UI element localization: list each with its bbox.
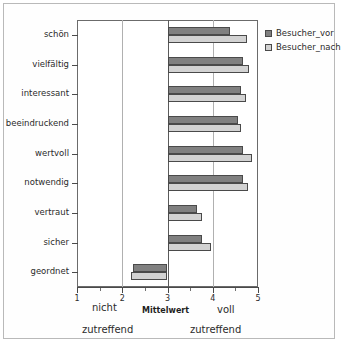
legend-swatch-Besucher_vor xyxy=(265,30,272,37)
legend-item-Besucher_nach[interactable]: Besucher_nach xyxy=(265,42,341,52)
bar-vielfältig-Besucher_vor xyxy=(168,57,244,65)
category-tick-beeindruckend xyxy=(72,124,78,125)
category-tick-geordnet xyxy=(72,272,78,273)
legend: Besucher_vorBesucher_nach xyxy=(265,28,341,56)
x-tick-minor-4.5 xyxy=(235,288,236,291)
x-tick-label-5: 5 xyxy=(251,294,265,303)
x-tick-label-4: 4 xyxy=(206,294,220,303)
bar-vertraut-Besucher_nach xyxy=(168,213,202,221)
plot-area xyxy=(77,20,258,287)
legend-label-Besucher_nach: Besucher_nach xyxy=(276,42,341,52)
gridline-2 xyxy=(122,20,123,287)
category-tick-vertraut xyxy=(72,213,78,214)
x-tick-minor-3.5 xyxy=(190,288,191,291)
category-label-schön: schön xyxy=(4,29,69,39)
legend-label-Besucher_vor: Besucher_vor xyxy=(276,28,334,38)
bar-notwendig-Besucher_vor xyxy=(168,175,244,183)
category-tick-notwendig xyxy=(72,183,78,184)
category-tick-interessant xyxy=(72,94,78,95)
bar-schön-Besucher_nach xyxy=(168,35,248,43)
x-tick-3 xyxy=(168,288,169,293)
axis-caption-left-top: nicht xyxy=(92,302,117,313)
category-label-vielfältig: vielfältig xyxy=(4,59,69,69)
x-tick-1 xyxy=(77,288,78,293)
bar-interessant-Besucher_vor xyxy=(168,86,242,94)
bar-geordnet-Besucher_vor xyxy=(133,264,168,272)
x-tick-label-2: 2 xyxy=(115,294,129,303)
bar-vielfältig-Besucher_nach xyxy=(168,65,249,73)
legend-item-Besucher_vor[interactable]: Besucher_vor xyxy=(265,28,341,38)
bar-beeindruckend-Besucher_vor xyxy=(168,116,238,124)
legend-swatch-Besucher_nach xyxy=(265,44,272,51)
category-label-notwendig: notwendig xyxy=(4,177,69,187)
category-tick-sicher xyxy=(72,243,78,244)
x-tick-label-3: 3 xyxy=(161,294,175,303)
x-axis-title: Mittelwert xyxy=(142,306,189,315)
x-tick-2 xyxy=(122,288,123,293)
bar-notwendig-Besucher_nach xyxy=(168,183,249,191)
x-tick-minor-2.5 xyxy=(145,288,146,291)
x-tick-label-1: 1 xyxy=(70,294,84,303)
axis-caption-right-top: voll xyxy=(217,304,235,315)
x-tick-minor-1.5 xyxy=(100,288,101,291)
bar-sicher-Besucher_nach xyxy=(168,243,212,251)
category-tick-vielfältig xyxy=(72,65,78,66)
bar-beeindruckend-Besucher_nach xyxy=(168,124,242,132)
category-label-geordnet: geordnet xyxy=(4,266,69,276)
bar-wertvoll-Besucher_vor xyxy=(168,146,244,154)
category-label-interessant: interessant xyxy=(4,88,69,98)
bar-interessant-Besucher_nach xyxy=(168,94,247,102)
category-tick-wertvoll xyxy=(72,154,78,155)
x-tick-4 xyxy=(213,288,214,293)
category-label-sicher: sicher xyxy=(4,237,69,247)
figure-frame: schönvielfältiginteressantbeeindruckendw… xyxy=(3,3,335,339)
axis-caption-left-bottom: zutreffend xyxy=(82,324,133,335)
category-label-wertvoll: wertvoll xyxy=(4,148,69,158)
bar-schön-Besucher_vor xyxy=(168,27,231,35)
category-tick-schön xyxy=(72,35,78,36)
bar-vertraut-Besucher_vor xyxy=(168,205,198,213)
axis-caption-right-bottom: zutreffend xyxy=(190,324,241,335)
category-label-vertraut: vertraut xyxy=(4,207,69,217)
category-label-beeindruckend: beeindruckend xyxy=(4,118,69,128)
bar-geordnet-Besucher_nach xyxy=(131,272,167,280)
bar-wertvoll-Besucher_nach xyxy=(168,154,253,162)
bar-sicher-Besucher_vor xyxy=(168,235,203,243)
x-tick-5 xyxy=(258,288,259,293)
